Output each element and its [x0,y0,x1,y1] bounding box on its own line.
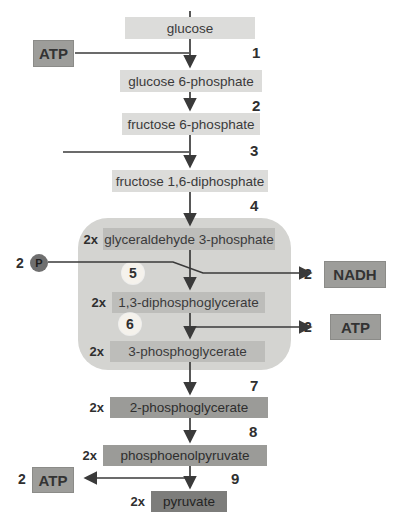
cofactor-nadh-output: NADH [324,261,386,288]
metabolite-3-phosphoglycerate: 3-phosphoglycerate [110,341,265,362]
step-4-label: 4 [250,197,258,214]
metabolite-1-3-diphosphoglycerate: 1,3-diphosphoglycerate [112,292,265,313]
cofactor-atp-output-bottom: ATP [32,467,74,493]
step-7-label: 7 [250,377,258,394]
quantity-atp-bottom: 2 [18,471,26,487]
multiplier-13dpg: 2x [82,295,106,310]
step-1-label: 1 [252,44,260,61]
metabolite-fructose-1-6-diphosphate: fructose 1,6-diphosphate [112,170,268,192]
multiplier-3pg: 2x [80,344,104,359]
multiplier-2pg: 2x [80,400,104,415]
metabolite-glucose: glucose [125,17,255,39]
step-2-label: 2 [252,97,260,114]
multiplier-pep: 2x [73,448,97,463]
metabolite-pyruvate: pyruvate [151,491,227,512]
quantity-nadh: 2 [304,266,312,282]
metabolite-phosphoenolpyruvate: phosphoenolpyruvate [103,445,267,466]
metabolite-glucose-6-phosphate: glucose 6-phosphate [120,70,262,92]
cofactor-atp-input: ATP [33,40,74,67]
multiplier-pyruvate: 2x [121,494,145,509]
step-8-label: 8 [249,423,257,440]
step-9-label: 9 [231,470,239,487]
glycolysis-pathway-diagram: glucose glucose 6-phosphate fructose 6-p… [0,0,399,530]
cofactor-atp-output-right: ATP [330,314,381,340]
quantity-atp-right: 2 [304,319,312,335]
metabolite-fructose-6-phosphate: fructose 6-phosphate [122,113,260,135]
multiplier-glyceraldehyde: 2x [74,232,98,247]
step-5-label: 5 [122,262,144,284]
metabolite-2-phosphoglycerate: 2-phosphoglycerate [110,397,268,418]
metabolite-glyceraldehyde-3-phosphate: glyceraldehyde 3-phosphate [103,228,275,250]
step-6-label: 6 [119,313,141,335]
quantity-phosphate: 2 [16,255,24,271]
step-3-label: 3 [250,142,258,159]
phosphate-circle: P [30,254,48,272]
